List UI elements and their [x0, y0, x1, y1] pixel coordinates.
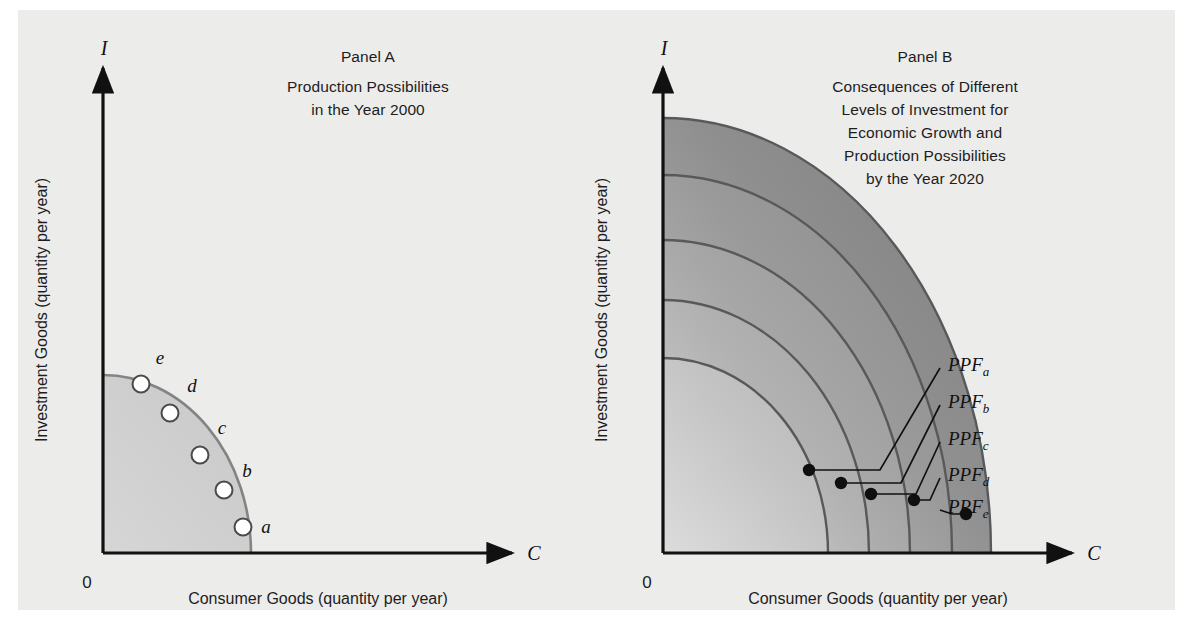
- panel-b-x-axis-symbol: C: [1087, 542, 1101, 564]
- point-marker-d[interactable]: [162, 405, 179, 422]
- panel-b-x-axis-label: Consumer Goods (quantity per year): [748, 590, 1008, 607]
- ppf-label-a-subscript: a: [983, 364, 990, 379]
- ppf-label-b-text: PPF: [947, 391, 983, 412]
- ppf-label-c-text: PPF: [947, 428, 983, 449]
- ppf-label-a-text: PPF: [947, 354, 983, 375]
- ppf-dot-c[interactable]: [865, 488, 877, 500]
- figure-root: I C 0 Panel A Production Possibilities i…: [0, 0, 1193, 634]
- ppf-dot-b[interactable]: [835, 477, 847, 489]
- panel-a-header: Panel A: [341, 48, 396, 65]
- panel-a-origin-label: 0: [82, 573, 91, 592]
- ppf-label-e-subscript: e: [983, 506, 989, 521]
- panel-b-title-line1: Consequences of Different: [832, 78, 1018, 95]
- panel-b-title-line3: Economic Growth and: [848, 124, 1002, 141]
- point-marker-c[interactable]: [192, 447, 209, 464]
- point-label-c: c: [218, 417, 227, 438]
- panel-a-x-axis-symbol: C: [527, 542, 541, 564]
- point-marker-b[interactable]: [216, 482, 233, 499]
- panel-b-y-axis-symbol: I: [660, 37, 669, 59]
- point-label-b: b: [242, 460, 252, 481]
- panel-b-y-axis-label: Investment Goods (quantity per year): [593, 178, 610, 442]
- ppf-label-e-text: PPF: [947, 496, 983, 517]
- ppf-dot-d[interactable]: [908, 494, 920, 506]
- panel-a-y-axis-label: Investment Goods (quantity per year): [33, 178, 50, 442]
- point-label-e: e: [156, 347, 164, 368]
- point-marker-e[interactable]: [133, 376, 150, 393]
- panel-a-title-line1: Production Possibilities: [287, 78, 449, 95]
- panel-b-title-line2: Levels of Investment for: [842, 101, 1009, 118]
- ppf-dot-a[interactable]: [803, 464, 815, 476]
- figure-canvas: I C 0 Panel A Production Possibilities i…: [0, 0, 1193, 634]
- panel-a-feasible-region: [103, 375, 251, 553]
- panel-a-x-axis-label: Consumer Goods (quantity per year): [188, 590, 448, 607]
- ppf-label-c-subscript: c: [983, 438, 989, 453]
- panel-a-point-e[interactable]: e: [133, 347, 165, 393]
- panel-b-header: Panel B: [898, 48, 953, 65]
- ppf-label-d-text: PPF: [947, 464, 983, 485]
- panel-a-point-a[interactable]: a: [235, 516, 271, 537]
- panel-b-title-line4: Production Possibilities: [844, 147, 1006, 164]
- ppf-label-d-subscript: d: [983, 474, 990, 489]
- panel-b-title-line5: by the Year 2020: [866, 170, 984, 187]
- panel-a-title-line2: in the Year 2000: [311, 101, 425, 118]
- point-label-a: a: [261, 516, 271, 537]
- point-label-d: d: [187, 375, 197, 396]
- panel-a: I C 0 Panel A Production Possibilities i…: [33, 37, 541, 607]
- panel-b-origin-label: 0: [642, 573, 651, 592]
- point-marker-a[interactable]: [235, 519, 252, 536]
- panel-b: I C 0 Panel B Consequences of Different …: [593, 37, 1101, 607]
- ppf-label-b-subscript: b: [983, 401, 990, 416]
- panel-a-y-axis-symbol: I: [100, 37, 109, 59]
